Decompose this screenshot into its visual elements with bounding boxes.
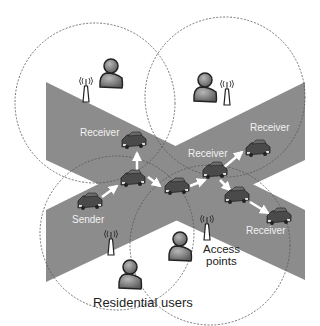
access-point-icon-2 [221, 80, 234, 105]
user-icon-2 [194, 73, 217, 102]
user-icon-4 [169, 232, 192, 261]
label-sender: Sender [72, 214, 105, 225]
label-residential-users: Residential users [93, 295, 193, 310]
access-point-icon-1 [80, 77, 93, 102]
label-access-points-line2: points [206, 255, 237, 267]
label-receiver-center: Receiver [188, 148, 228, 159]
vanet-diagram: Receiver Receiver Receiver Receiver Send… [0, 0, 320, 326]
user-icon-1 [100, 59, 123, 88]
label-receiver-top-right: Receiver [250, 122, 290, 133]
label-access-points-line1: Access [203, 243, 240, 255]
label-receiver-bottom-right: Receiver [246, 225, 286, 236]
user-icon-3 [119, 260, 142, 289]
label-receiver-top-left: Receiver [80, 127, 120, 138]
